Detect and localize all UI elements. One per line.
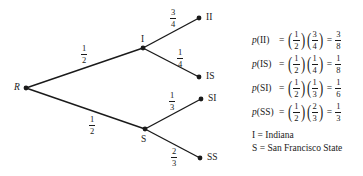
root-label: R: [14, 83, 20, 93]
branch-r-s: [26, 88, 145, 129]
equation-is: p(IS) = (12) (14) = 18: [252, 53, 341, 75]
prob-i-ii: 34: [170, 8, 176, 28]
node-s: [143, 127, 148, 132]
leaf-si-label: SI: [208, 94, 216, 104]
prob-r-i: 12: [81, 44, 87, 64]
prob-s-ss: 23: [171, 147, 177, 167]
leaf-ss: [198, 156, 203, 161]
node-s-label: S: [141, 135, 146, 145]
branch-i-is: [143, 48, 199, 77]
legend-san-francisco-state: S = San Francisco State: [252, 144, 342, 154]
leaf-ii: [197, 16, 202, 21]
prob-s-si: 13: [169, 91, 175, 111]
leaf-si: [199, 97, 204, 102]
equation-ii: p(II) = (12) (34) = 38: [252, 29, 341, 51]
node-r: [24, 86, 29, 91]
leaf-ii-label: II: [206, 13, 212, 23]
prob-r-s: 12: [89, 115, 95, 135]
legend-indiana: I = Indiana: [252, 131, 294, 141]
node-i-label: I: [141, 35, 144, 45]
equation-ss: p(SS) = (12) (23) = 13: [252, 101, 341, 123]
prob-i-is: 14: [177, 48, 183, 68]
leaf-is-label: IS: [206, 72, 214, 82]
leaf-is: [197, 75, 202, 80]
leaf-ss-label: SS: [207, 153, 218, 163]
equation-si: p(SI) = (12) (13) = 16: [252, 77, 341, 99]
node-i: [141, 46, 146, 51]
